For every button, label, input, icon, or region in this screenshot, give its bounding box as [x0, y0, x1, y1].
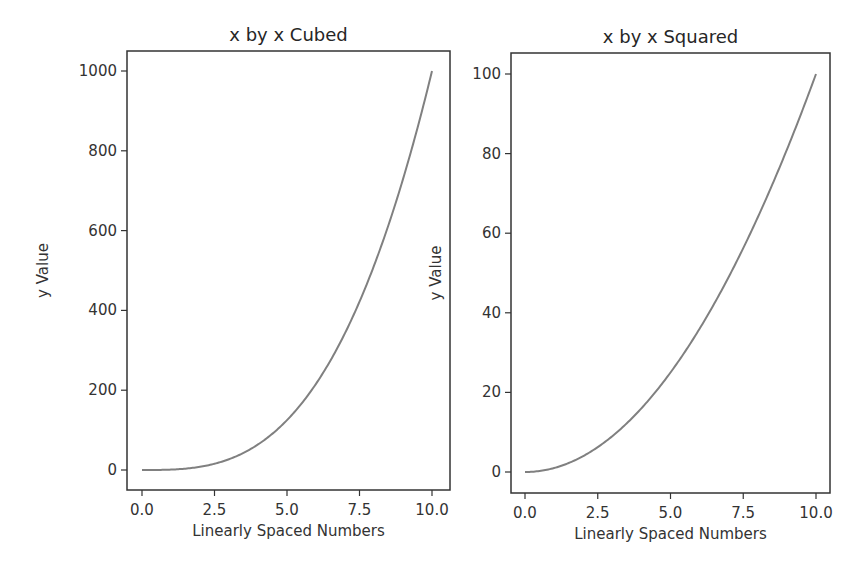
y-tick-label: 600 [88, 222, 117, 240]
data-line [525, 74, 816, 472]
chart-title: x by x Cubed [229, 24, 347, 45]
y-tick-label: 100 [472, 65, 501, 83]
chart-title: x by x Squared [603, 26, 738, 47]
y-tick-label: 60 [482, 224, 501, 242]
x-tick-label: 0.0 [130, 501, 154, 519]
x-axis-label: Linearly Spaced Numbers [574, 525, 767, 543]
x-tick-label: 10.0 [415, 501, 448, 519]
y-tick-label: 0 [107, 461, 117, 479]
y-tick-label: 800 [88, 142, 117, 160]
x-tick-label: 7.5 [731, 504, 755, 522]
subplot-cubed: 0.02.55.07.510.002004006008001000x by x … [34, 24, 450, 540]
y-tick-label: 80 [482, 145, 501, 163]
x-tick-label: 2.5 [203, 501, 227, 519]
y-tick-label: 0 [491, 463, 501, 481]
y-tick-label: 40 [482, 304, 501, 322]
y-tick-label: 1000 [79, 62, 117, 80]
x-tick-label: 0.0 [513, 504, 537, 522]
x-tick-label: 7.5 [348, 501, 372, 519]
data-line [142, 71, 432, 470]
x-tick-label: 5.0 [659, 504, 683, 522]
axes-frame [511, 53, 830, 493]
y-tick-label: 400 [88, 301, 117, 319]
y-axis-label: y Value [34, 243, 52, 298]
x-tick-label: 10.0 [799, 504, 832, 522]
subplot-squared: 0.02.55.07.510.0020406080100x by x Squar… [427, 26, 833, 543]
y-tick-label: 20 [482, 383, 501, 401]
axes-frame [127, 51, 450, 490]
y-axis-label: y Value [427, 246, 445, 301]
x-tick-label: 2.5 [586, 504, 610, 522]
x-tick-label: 5.0 [275, 501, 299, 519]
y-tick-label: 200 [88, 381, 117, 399]
figure: 0.02.55.07.510.002004006008001000x by x … [0, 0, 860, 583]
x-axis-label: Linearly Spaced Numbers [192, 522, 385, 540]
